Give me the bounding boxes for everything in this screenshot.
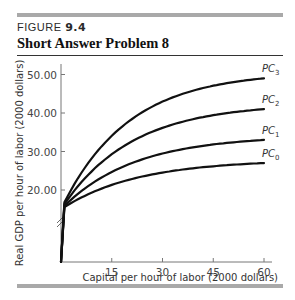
chart: 20.0030.0040.0050.0015304560Capital per … — [0, 0, 295, 300]
curve-label-pc1: PC1 — [262, 125, 279, 139]
bottom-rule — [17, 284, 283, 288]
curve-pc2 — [61, 109, 264, 262]
y-tick-label: 20.00 — [27, 184, 57, 196]
curve-label-pc3: PC3 — [262, 63, 279, 77]
curve-pc0 — [61, 163, 264, 262]
y-tick-label: 50.00 — [27, 69, 57, 81]
y-tick-label: 40.00 — [27, 107, 57, 119]
y-tick-label: 30.00 — [27, 146, 57, 158]
curve-label-pc0: PC0 — [262, 148, 279, 162]
x-axis-title: Capital per hour of labor (2000 dollars) — [83, 272, 279, 283]
curve-label-pc2: PC2 — [262, 94, 279, 108]
y-axis-title: Real GDP per hour of labor (2000 dollars… — [14, 60, 25, 267]
